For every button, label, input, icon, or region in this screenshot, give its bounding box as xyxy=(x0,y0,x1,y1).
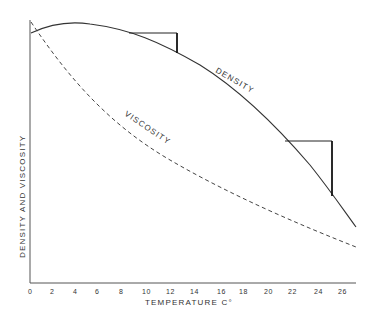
density-curve xyxy=(31,23,356,227)
viscosity-curve xyxy=(31,22,356,247)
svg-text:2: 2 xyxy=(50,288,54,295)
svg-text:16: 16 xyxy=(217,288,226,295)
svg-text:0: 0 xyxy=(28,288,32,295)
x-axis-label: TEMPERATURE C° xyxy=(145,298,233,307)
slope-triangle-2 xyxy=(285,141,332,196)
slope-triangle-1 xyxy=(129,33,177,53)
svg-text:12: 12 xyxy=(166,288,175,295)
svg-text:22: 22 xyxy=(288,288,297,295)
svg-text:14: 14 xyxy=(190,288,199,295)
viscosity-label: VISCOSITY xyxy=(123,109,172,146)
svg-text:8: 8 xyxy=(119,288,123,295)
x-tick-labels: 0 2 4 6 8 10 12 14 16 18 20 22 24 26 xyxy=(28,288,347,295)
y-axis-label: DENSITY AND VISCOSITY xyxy=(18,135,27,258)
chart: DENSITY VISCOSITY DENSITY AND VISCOSITY … xyxy=(0,0,381,329)
svg-text:4: 4 xyxy=(73,288,77,295)
svg-text:26: 26 xyxy=(338,288,347,295)
svg-text:20: 20 xyxy=(264,288,273,295)
svg-text:24: 24 xyxy=(314,288,323,295)
svg-text:6: 6 xyxy=(95,288,99,295)
svg-text:18: 18 xyxy=(239,288,248,295)
svg-text:10: 10 xyxy=(142,288,151,295)
